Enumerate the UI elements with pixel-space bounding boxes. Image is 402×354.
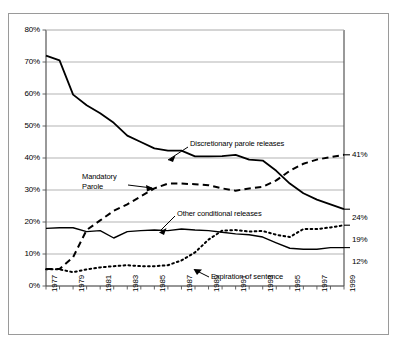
y-axis-label-50: 50% [10,121,40,130]
x-axis-label-1995: 1995 [293,275,302,292]
callout-discretionary-parole: Discretionary parole releases [190,139,284,149]
x-axis-label-1987: 1987 [185,275,194,292]
x-axis-label-1999: 1999 [348,275,357,292]
series-lines [46,56,344,273]
arrowhead-expiration [194,269,203,275]
x-axis-label-1983: 1983 [131,275,140,292]
y-axis-label-70: 70% [10,57,40,66]
y-axis-label-60: 60% [10,89,40,98]
callout-other-conditional: Other conditional releases [177,209,262,219]
y-axis-label-30: 30% [10,185,40,194]
chart-figure: 80%70%60%50%40%30%20%10%0% 1977197919811… [0,0,402,354]
x-axis-label-1979: 1979 [77,275,86,292]
x-axis-label-1981: 1981 [104,275,113,292]
callout-mandatory-parole-line2: Parole [82,182,103,192]
y-axis-label-80: 80% [10,25,40,34]
x-axis-label-1997: 1997 [320,275,329,292]
end-label-discretionary: 24% [352,213,367,222]
chart-plot-svg [0,0,402,354]
y-axis-label-20: 20% [10,217,40,226]
x-axis-label-1977: 1977 [50,275,59,292]
end-label-other: 12% [352,257,367,266]
end-label-expiration: 19% [352,235,367,244]
series-line-other-conditional-releases [46,228,344,249]
callout-expiration-of-sentence: Expiration of sentence [211,272,283,282]
end-label-ticks [344,155,350,248]
y-axis-label-40: 40% [10,153,40,162]
y-axis-label-10: 10% [10,249,40,258]
x-axis-ticks [43,30,345,290]
end-label-mandatory: 41% [352,150,367,159]
callout-mandatory-parole-line1: Mandatory [82,172,117,182]
x-axis-label-1985: 1985 [158,275,167,292]
y-axis-label-0: 0% [10,281,40,290]
arrowhead-other [159,228,167,235]
leader-other [160,216,175,231]
arrowhead-mandatory [146,185,154,192]
